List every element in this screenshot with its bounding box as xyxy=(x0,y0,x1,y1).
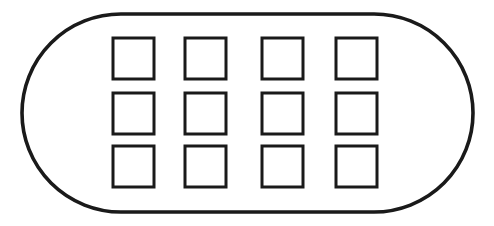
grid-square-r1-c4 xyxy=(336,38,377,79)
grid-square-r3-c1 xyxy=(113,146,154,187)
grid-square-r2-c3 xyxy=(262,93,303,134)
grid-square-r1-c2 xyxy=(185,38,226,79)
square-grid xyxy=(113,38,377,187)
grid-square-r2-c4 xyxy=(336,93,377,134)
grid-square-r3-c3 xyxy=(262,146,303,187)
grid-square-r3-c2 xyxy=(185,146,226,187)
grid-square-r3-c4 xyxy=(336,146,377,187)
grid-square-r1-c3 xyxy=(262,38,303,79)
outer-rounded-outline xyxy=(22,14,473,212)
drawing-group xyxy=(22,14,473,212)
grid-square-r2-c1 xyxy=(113,93,154,134)
grid-square-r1-c1 xyxy=(113,38,154,79)
grid-square-r2-c2 xyxy=(185,93,226,134)
figure-canvas xyxy=(0,0,494,226)
line-drawing-svg xyxy=(0,0,494,226)
